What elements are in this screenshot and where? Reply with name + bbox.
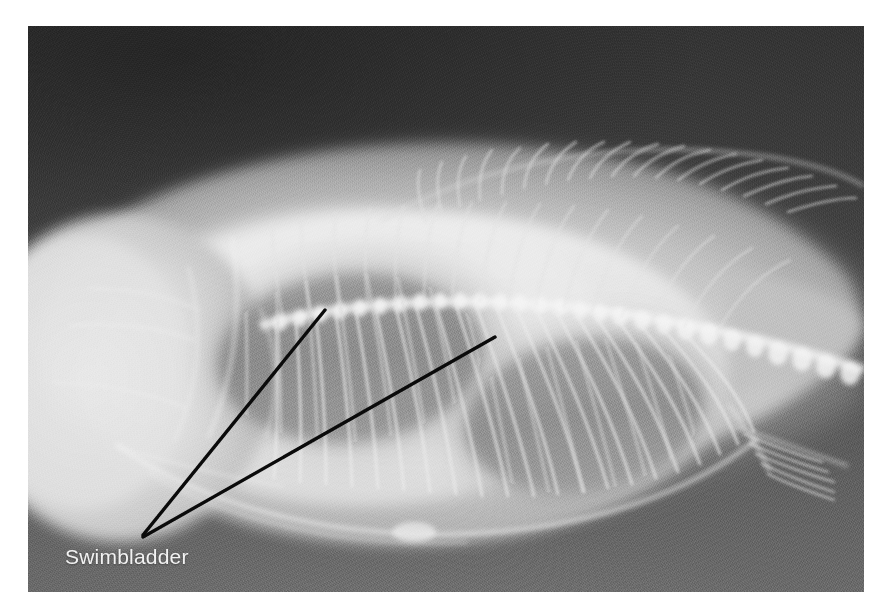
radiograph-figure: Swimbladder	[0, 0, 887, 613]
annotation-leader-lines	[28, 26, 864, 592]
leader-to-anterior-chamber	[143, 310, 325, 535]
swimbladder-label: Swimbladder	[65, 546, 189, 567]
radiograph-plate: Swimbladder	[28, 26, 864, 592]
leader-to-posterior-chamber	[143, 337, 495, 537]
